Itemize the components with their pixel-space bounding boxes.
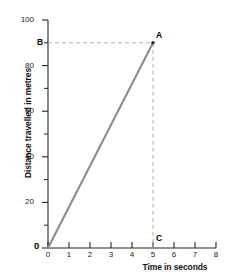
x-tick-label-0: 0 (41, 250, 55, 259)
x-axis-title: Time in seconds (120, 262, 230, 272)
x-tick-label-3: 3 (104, 250, 118, 259)
y-tick-label-100: 100 (8, 15, 34, 24)
x-tick-label-7: 7 (188, 250, 202, 259)
x-tick-label-2: 2 (83, 250, 97, 259)
y-tick-label-60: 60 (8, 106, 34, 115)
chart-plot-area (0, 0, 235, 279)
y-tick-label-40: 40 (8, 152, 34, 161)
data-line-distance (48, 43, 153, 248)
x-axis-ticks (48, 242, 216, 248)
data-point-a-marker (151, 41, 154, 44)
point-label-c: C (156, 233, 162, 243)
x-tick-label-5: 5 (146, 250, 160, 259)
x-tick-label-6: 6 (167, 250, 181, 259)
origin-label: 0 (34, 240, 39, 251)
y-tick-label-20: 20 (8, 197, 34, 206)
y-axis-minor-ticks (44, 43, 48, 225)
point-label-a: A (156, 30, 162, 40)
x-tick-label-4: 4 (125, 250, 139, 259)
x-tick-label-8: 8 (209, 250, 223, 259)
distance-time-chart: Distance travelled in metres Time in sec… (0, 0, 235, 279)
y-tick-label-80: 80 (8, 61, 34, 70)
x-tick-label-1: 1 (62, 250, 76, 259)
point-label-b: B (37, 37, 43, 47)
